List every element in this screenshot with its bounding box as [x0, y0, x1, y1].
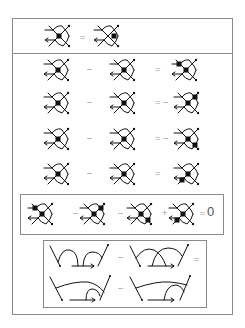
equals-sign: = — [194, 254, 199, 264]
diagram-4t-2 — [80, 202, 106, 226]
minus-sign: – — [87, 97, 92, 107]
diagram-row4-b — [110, 162, 136, 186]
term-sign: – — [118, 208, 123, 218]
chord-diagram-2 — [130, 244, 190, 270]
diagram-row2-b — [110, 91, 136, 115]
minus-sign: – — [87, 64, 92, 74]
chord-diagram-4 — [130, 275, 190, 303]
equals-sign: = — [80, 32, 85, 42]
equals-sign: = — [155, 97, 160, 107]
minus-prefix: – — [163, 133, 168, 143]
diagram-row2-c — [174, 91, 200, 115]
diagram-row4-a — [44, 162, 70, 186]
minus-sign: – — [118, 252, 123, 262]
diagram-row1-a — [44, 58, 70, 82]
diagram-top-rhs — [94, 24, 120, 48]
minus-sign: – — [87, 168, 92, 178]
top-divider — [12, 53, 233, 54]
diagram-4t-1 — [28, 202, 54, 226]
equals-sign: = — [200, 208, 205, 218]
minus-sign: – — [87, 133, 92, 143]
diagram-4t-4 — [169, 202, 195, 226]
diagram-row1-b — [110, 58, 136, 82]
diagram-row3-c — [174, 127, 200, 151]
diagram-row4-c — [174, 162, 200, 186]
chord-diagram-1 — [50, 244, 110, 270]
minus-prefix: – — [163, 97, 168, 107]
term-sign: – — [73, 208, 78, 218]
minus-sign: – — [118, 283, 123, 293]
equals-sign: = — [155, 168, 160, 178]
equals-sign: = — [155, 133, 160, 143]
equals-sign: = — [155, 64, 160, 74]
diagram-row3-b — [110, 127, 136, 151]
chord-diagram-3 — [50, 275, 110, 303]
term-sign: + — [162, 208, 167, 218]
zero-value: 0 — [207, 205, 214, 219]
diagram-row3-a — [44, 127, 70, 151]
diagram-row1-c — [172, 58, 198, 82]
diagram-top-lhs — [45, 24, 71, 48]
diagram-4t-3 — [127, 202, 153, 226]
diagram-row2-a — [44, 91, 70, 115]
